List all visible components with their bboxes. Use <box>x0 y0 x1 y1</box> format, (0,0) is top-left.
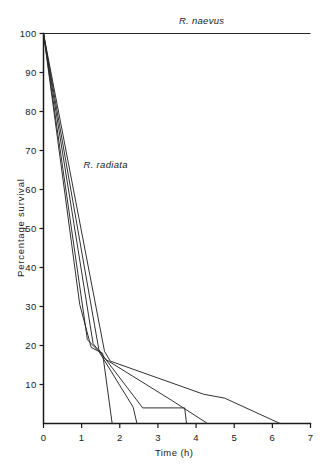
data-series-group <box>44 34 311 424</box>
y-tick-label: 30 <box>25 302 36 312</box>
x-tick-label: 4 <box>186 433 206 443</box>
x-tick-label: 5 <box>224 433 244 443</box>
x-tick-label: 7 <box>301 433 321 443</box>
y-tick-label: 70 <box>25 146 36 156</box>
y-tick-label: 90 <box>25 68 36 78</box>
y-tick-label: 10 <box>25 380 36 390</box>
figure-panel: 102030405060708090100 01234567 R. naevus… <box>0 0 326 467</box>
series-path-5 <box>44 34 280 424</box>
series-annotation-1: R. radiata <box>84 160 128 170</box>
y-tick-label: 60 <box>25 185 36 195</box>
x-tick-label: 1 <box>72 433 92 443</box>
y-tick-label: 50 <box>25 224 36 234</box>
series-annotation-0: R. naevus <box>179 16 224 26</box>
y-tick-label: 80 <box>25 107 36 117</box>
survival-curve-plot <box>0 0 326 467</box>
series-path-2 <box>44 34 137 424</box>
x-tick-label: 6 <box>262 433 282 443</box>
y-axis-title: Percentage survival <box>16 178 26 277</box>
y-tick-label: 40 <box>25 263 36 273</box>
x-tick-label: 2 <box>110 433 130 443</box>
x-axis-title: Time (h) <box>155 448 193 458</box>
x-tick-label: 3 <box>148 433 168 443</box>
y-tick-label: 100 <box>20 29 37 39</box>
series-path-4 <box>44 34 208 424</box>
tick-marks-group <box>40 34 311 429</box>
axis-spines <box>44 34 311 424</box>
x-tick-label: 0 <box>34 433 54 443</box>
axes-group <box>44 34 311 424</box>
y-tick-label: 20 <box>25 341 36 351</box>
